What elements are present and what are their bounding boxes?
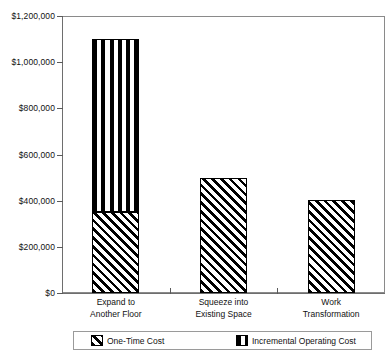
x-category-label-line: Squeeze into [195,297,251,309]
y-tick-label: $1,200,000 [11,11,55,21]
x-category-label: WorkTransformation [303,297,360,320]
y-tick-label: $1,000,000 [11,57,55,67]
legend-swatch-icon [236,335,248,346]
x-category-label: Squeeze intoExisting Space [195,297,251,320]
legend-entry[interactable]: Incremental Operating Cost [236,332,356,349]
y-tick-label: $600,000 [19,150,55,160]
y-tick-mark [57,108,63,109]
x-axis-line [62,293,385,294]
y-tick-label: $0 [45,288,55,298]
bar-segment [308,200,355,293]
cost-comparison-bar-chart: $0$200,000$400,000$600,000$800,000$1,000… [0,0,392,359]
legend-entry[interactable]: One-Time Cost [91,332,164,349]
x-tick-mark [170,288,171,294]
x-category-label-line: Work [303,297,360,309]
y-tick-mark [57,16,63,17]
bar-segment [200,178,247,293]
x-category-label-line: Existing Space [195,309,251,321]
y-tick-mark [57,293,63,294]
legend-label: One-Time Cost [107,336,164,346]
chart-legend: One-Time CostIncremental Operating Cost [73,331,372,350]
legend-label: Incremental Operating Cost [252,336,356,346]
y-tick-mark [57,247,63,248]
y-tick-label: $200,000 [19,242,55,252]
x-category-label-line: Another Floor [90,309,142,321]
x-tick-mark [277,288,278,294]
x-category-label-line: Transformation [303,309,360,321]
y-tick-label: $800,000 [19,103,55,113]
y-tick-mark [57,62,63,63]
bar-segment [92,212,139,293]
y-tick-mark [57,155,63,156]
y-tick-mark [57,201,63,202]
legend-swatch-icon [91,335,103,346]
bar-segment [92,39,139,212]
x-category-label: Expand toAnother Floor [90,297,142,320]
x-category-label-line: Expand to [90,297,142,309]
y-tick-label: $400,000 [19,196,55,206]
